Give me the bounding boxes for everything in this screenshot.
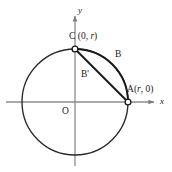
point-c-x-value: 0 bbox=[81, 31, 86, 41]
point-label-c-coords: (0, r) bbox=[78, 31, 98, 41]
point-label-c: C (0, r) bbox=[69, 32, 97, 42]
chord-label-b-prime: B' bbox=[81, 70, 89, 80]
point-a-x-value: r bbox=[137, 84, 141, 94]
x-axis-label: x bbox=[160, 97, 164, 106]
y-axis-label: y bbox=[78, 6, 82, 15]
point-label-a-coords: (r, 0) bbox=[134, 84, 154, 94]
point-marker-c bbox=[72, 46, 78, 52]
point-label-a: A(r, 0) bbox=[127, 85, 153, 95]
point-marker-a bbox=[125, 99, 131, 105]
point-c-y-value: r bbox=[90, 31, 94, 41]
origin-label: O bbox=[62, 107, 69, 117]
arc-label-b: B bbox=[115, 50, 121, 60]
point-a-y-value: 0 bbox=[146, 84, 151, 94]
point-label-a-name: A bbox=[127, 84, 134, 94]
geometry-figure: y x C (0, r) A(r, 0) B B' O bbox=[0, 0, 172, 172]
